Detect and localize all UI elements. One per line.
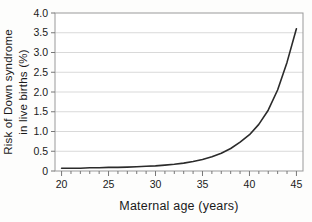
y-axis-label: Risk of Down syndrome in live births (%) — [1, 11, 33, 173]
y-tick-label-4: 4.0 — [33, 7, 48, 19]
y-axis-label-line2: in live births (%) — [16, 11, 31, 173]
y-tick-label-0: 0 — [42, 165, 48, 177]
down-syndrome-risk-chart: 00.51.01.52.02.53.03.54.0202530354045 Ri… — [0, 0, 312, 222]
y-tick-label-3.5: 3.5 — [33, 26, 48, 38]
x-tick-label-35: 35 — [197, 178, 209, 190]
plot-area: 00.51.01.52.02.53.03.54.0202530354045 — [0, 0, 312, 222]
x-tick-label-45: 45 — [291, 178, 303, 190]
y-tick-label-1: 1.0 — [33, 125, 48, 137]
x-tick-label-40: 40 — [244, 178, 256, 190]
y-tick-label-3: 3.0 — [33, 46, 48, 58]
x-axis-label: Maternal age (years) — [55, 199, 303, 213]
x-tick-label-30: 30 — [150, 178, 162, 190]
x-tick-label-25: 25 — [103, 178, 115, 190]
y-tick-label-1.5: 1.5 — [33, 105, 48, 117]
x-tick-label-20: 20 — [56, 178, 68, 190]
y-tick-label-0.5: 0.5 — [33, 145, 48, 157]
y-axis-label-line1: Risk of Down syndrome — [1, 11, 16, 173]
y-tick-label-2: 2.0 — [33, 86, 48, 98]
y-tick-label-2.5: 2.5 — [33, 66, 48, 78]
